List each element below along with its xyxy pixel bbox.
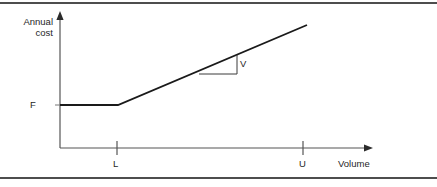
chart-figure: Annual cost Volume F L U V (0, 0, 437, 187)
x-tick-label-L: L (113, 158, 118, 169)
y-axis-label-line1: Annual (8, 16, 53, 27)
bottom-divider-rule (0, 177, 437, 179)
x-axis-label: Volume (338, 158, 370, 169)
cost-function-line (60, 25, 307, 105)
x-axis-arrowhead (364, 144, 373, 151)
slope-annotation-label-V: V (240, 58, 246, 69)
plot-area (0, 0, 437, 187)
y-axis-label: Annual cost (8, 16, 53, 38)
y-axis-arrowhead (56, 11, 63, 20)
y-axis-label-line2: cost (8, 27, 53, 38)
y-tick-label-F: F (30, 99, 36, 110)
x-tick-label-U: U (299, 158, 306, 169)
